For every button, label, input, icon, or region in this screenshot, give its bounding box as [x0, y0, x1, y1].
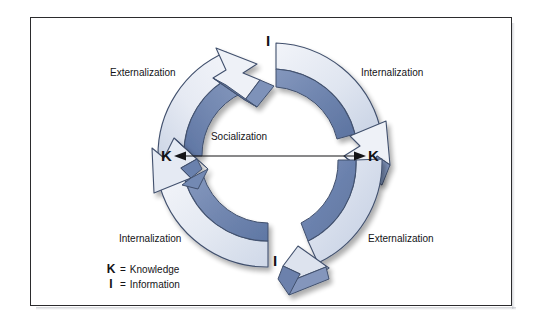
node-letter-bottom-information: I — [273, 253, 277, 268]
node-letter-right-knowledge: K — [368, 148, 379, 163]
legend-equals-k: = — [117, 262, 130, 277]
legend-value-information: Information — [130, 277, 180, 292]
phase-label-internalization-top-right: Internalization — [361, 68, 423, 78]
knowledge-cycle-diagram — [30, 17, 512, 306]
node-letter-left-knowledge: K — [161, 148, 172, 163]
phase-label-externalization-bottom-right: Externalization — [368, 234, 434, 244]
legend-equals-i: = — [117, 277, 130, 292]
figure-page: I K I K Externalization Internalization … — [0, 0, 541, 328]
legend-key-k: K — [105, 262, 117, 277]
node-letter-top-information: I — [266, 33, 270, 48]
socialization-arrow — [174, 152, 366, 161]
arrow-externalization-bottom-right — [278, 159, 382, 295]
phase-label-externalization-top-left: Externalization — [110, 68, 176, 78]
legend-value-knowledge: Knowledge — [130, 262, 179, 277]
page-shadow-bottom — [36, 307, 516, 310]
phase-label-internalization-bottom-left: Internalization — [119, 234, 181, 244]
legend-row-information: I = Information — [105, 277, 180, 292]
page-shadow-right — [512, 23, 515, 309]
legend-row-knowledge: K = Knowledge — [105, 262, 180, 277]
socialization-label: Socialization — [211, 132, 267, 142]
legend: K = Knowledge I = Information — [105, 262, 180, 292]
legend-key-i: I — [105, 277, 117, 292]
